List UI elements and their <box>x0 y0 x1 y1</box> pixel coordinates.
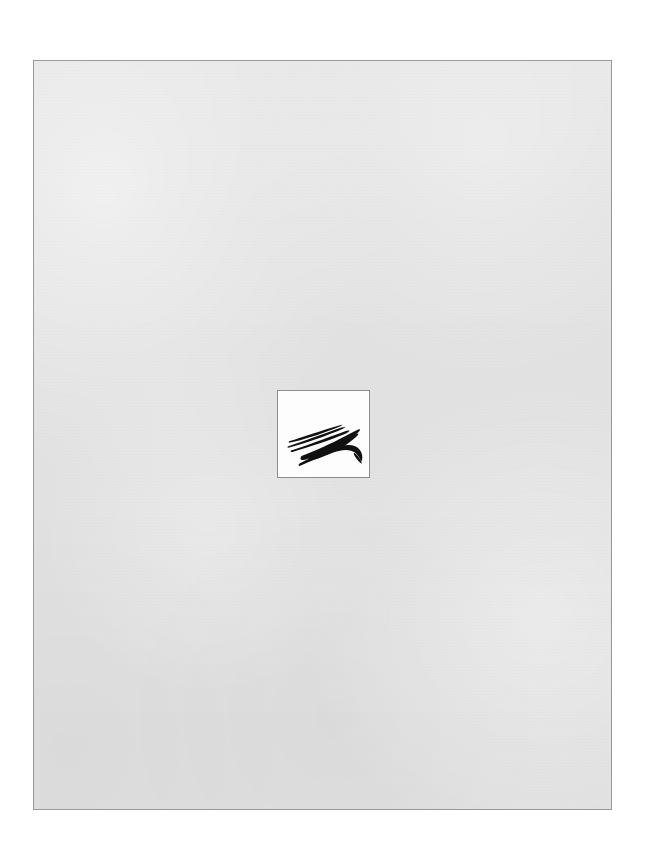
scanned-page-sheet <box>33 60 612 810</box>
logo-plate <box>277 390 370 478</box>
calligraphic-brushstroke-logo-icon <box>281 394 366 474</box>
